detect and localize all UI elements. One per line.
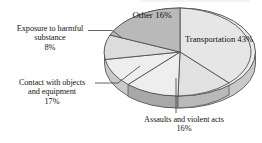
label-contact-line2: and equipment bbox=[0, 87, 104, 96]
label-assaults-line1: Assaults and violent acts bbox=[118, 115, 250, 124]
pie-chart-figure: Exposure to harmful substance 8% Contact… bbox=[0, 0, 262, 143]
label-contact-line1: Contact with objects bbox=[0, 78, 104, 87]
label-assaults-and-violent-acts: Assaults and violent acts 16% bbox=[118, 115, 250, 134]
label-other-percent: 16% bbox=[155, 10, 172, 20]
label-other-line1: Other bbox=[132, 10, 153, 20]
label-other: Other 16% bbox=[129, 10, 175, 20]
label-transportation: Transportation 43% bbox=[181, 35, 257, 45]
label-transportation-line1: Transportation bbox=[185, 34, 235, 44]
label-exposure-line1: Exposure to harmful bbox=[2, 24, 98, 33]
label-transportation-percent: 43% bbox=[237, 34, 253, 44]
label-exposure-percent: 8% bbox=[2, 43, 98, 52]
clipped-title-remnant bbox=[140, 0, 250, 2]
label-contact-percent: 17% bbox=[0, 97, 104, 106]
label-assaults-percent: 16% bbox=[118, 124, 250, 133]
label-exposure-to-harmful-substance: Exposure to harmful substance 8% bbox=[2, 24, 98, 52]
label-contact-with-objects-and-equipment: Contact with objects and equipment 17% bbox=[0, 78, 104, 106]
label-exposure-line2: substance bbox=[2, 33, 98, 42]
pie-top-face bbox=[104, 8, 255, 96]
